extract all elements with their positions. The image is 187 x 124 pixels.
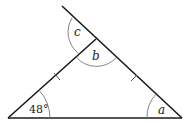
label-left-angle: 48°	[29, 103, 49, 116]
left-side	[8, 39, 96, 118]
tick-mark-right	[131, 75, 137, 81]
arc-right-angle	[147, 94, 156, 118]
right-side-extended	[62, 6, 182, 118]
triangle-diagram: 48° a b c	[0, 0, 187, 124]
label-right-angle: a	[158, 103, 165, 117]
label-apex-interior: b	[92, 49, 100, 63]
label-apex-exterior: c	[74, 25, 81, 39]
